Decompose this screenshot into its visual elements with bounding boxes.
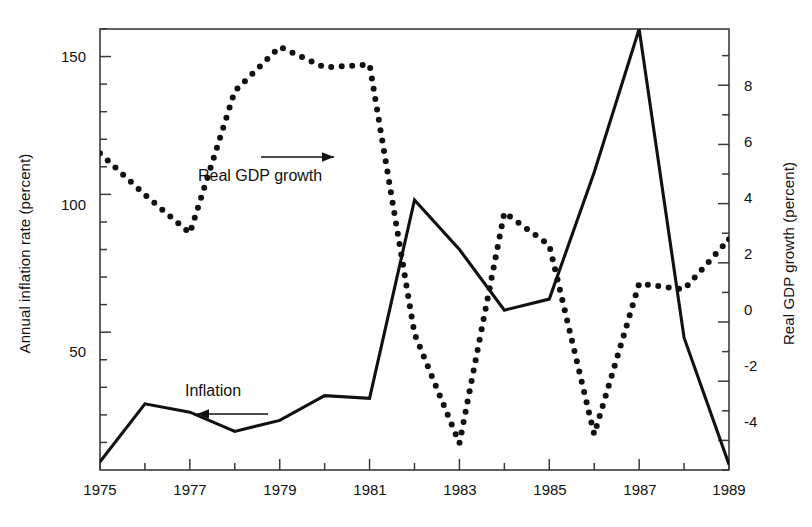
y-axis-left-title: Annual inflation rate (percent) [16,129,33,379]
y-tick-label-right-8: 8 [744,77,784,94]
x-tick-label-1983: 1983 [430,481,490,498]
plot-area [0,0,812,527]
x-axis-ticks [100,459,729,470]
y-axis-right-ticks [718,56,729,470]
y-tick-label-left-100: 100 [26,196,86,213]
x-tick-label-1979: 1979 [250,481,310,498]
y-tick-label-right-6: 6 [744,133,784,150]
y-axis-left-ticks [100,29,111,442]
x-tick-label-1981: 1981 [340,481,400,498]
y-tick-label-right-0: 0 [744,301,784,318]
x-tick-label-1987: 1987 [610,481,670,498]
y-tick-label-left-50: 50 [26,343,86,360]
plot-frame [100,29,729,470]
y-tick-label-right-2: 2 [744,245,784,262]
x-tick-label-1985: 1985 [520,481,580,498]
x-tick-label-1977: 1977 [160,481,220,498]
y-tick-label-left-150: 150 [26,48,86,65]
annotation-real-gdp-growth: Real GDP growth [198,167,322,185]
chart-figure: Annual inflation rate (percent) Real GDP… [0,0,812,527]
y-tick-label-right-4: 4 [744,189,784,206]
x-tick-label-1975: 1975 [70,481,130,498]
annotation-inflation: Inflation [185,382,241,400]
y-tick-label-right-minus4: -4 [744,413,784,430]
x-tick-label-1989: 1989 [699,481,759,498]
y-tick-label-right-minus2: -2 [744,357,784,374]
